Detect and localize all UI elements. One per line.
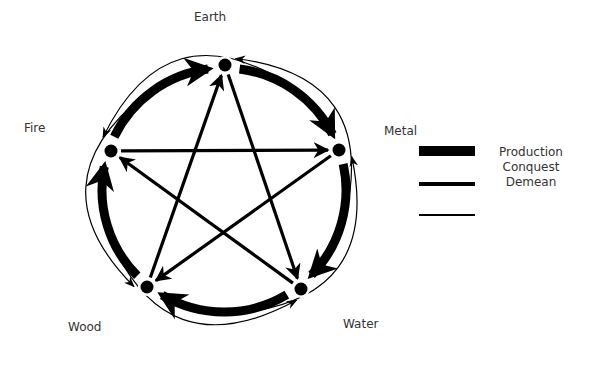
- element-nodes: [102, 56, 348, 298]
- demean-edges: [86, 55, 357, 324]
- legend-label-production: Production: [490, 145, 572, 160]
- conquest-edges: [120, 74, 331, 283]
- node-label-metal: Metal: [384, 124, 417, 138]
- conquest-arrow-fire-metal: [121, 150, 328, 151]
- node-label-wood: Wood: [68, 320, 101, 334]
- node-water: [295, 283, 308, 296]
- node-label-earth: Earth: [194, 10, 226, 24]
- production-edges: [102, 69, 346, 312]
- legend-label-demean: Demean: [490, 175, 572, 190]
- legend-swatch-demean: [419, 214, 475, 216]
- node-label-fire: Fire: [24, 121, 45, 135]
- node-label-water: Water: [343, 317, 378, 331]
- legend-swatch-production: [419, 146, 475, 156]
- demean-arrow-fire-wood: [86, 94, 146, 286]
- conquest-arrow-metal-wood: [156, 156, 331, 281]
- legend-swatch-conquest: [419, 182, 475, 186]
- node-metal: [333, 144, 346, 157]
- node-wood: [141, 281, 154, 294]
- production-arrow-metal-water: [312, 164, 346, 275]
- node-earth: [219, 59, 232, 72]
- demean-arrow-metal-earth: [236, 59, 352, 217]
- production-arrow-fire-earth: [114, 69, 208, 137]
- node-fire: [105, 145, 118, 158]
- legend-swatches: [419, 146, 475, 216]
- legend-labels: Production Conquest Demean: [490, 145, 572, 190]
- conquest-arrow-earth-water: [228, 74, 297, 278]
- production-arrow-water-wood: [162, 295, 287, 312]
- production-arrow-wood-fire: [102, 167, 137, 276]
- conquest-arrow-wood-earth: [150, 75, 221, 277]
- conquest-arrow-water-fire: [120, 157, 293, 283]
- legend-label-conquest: Conquest: [490, 160, 572, 175]
- production-arrow-earth-metal: [240, 69, 333, 134]
